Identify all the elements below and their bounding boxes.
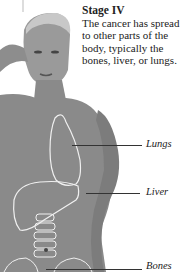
liver-leader-line [86, 193, 140, 194]
label-liver: Liver [146, 186, 168, 197]
caption-body: The cancer has spread to other parts of … [82, 17, 184, 67]
lungs-leader-line [72, 145, 142, 146]
label-lungs: Lungs [146, 138, 172, 149]
label-bones: Bones [146, 260, 172, 271]
caption-title: Stage IV [82, 4, 184, 17]
stage-caption: Stage IV The cancer has spread to other … [82, 4, 184, 67]
bones-leader-line [46, 269, 142, 270]
